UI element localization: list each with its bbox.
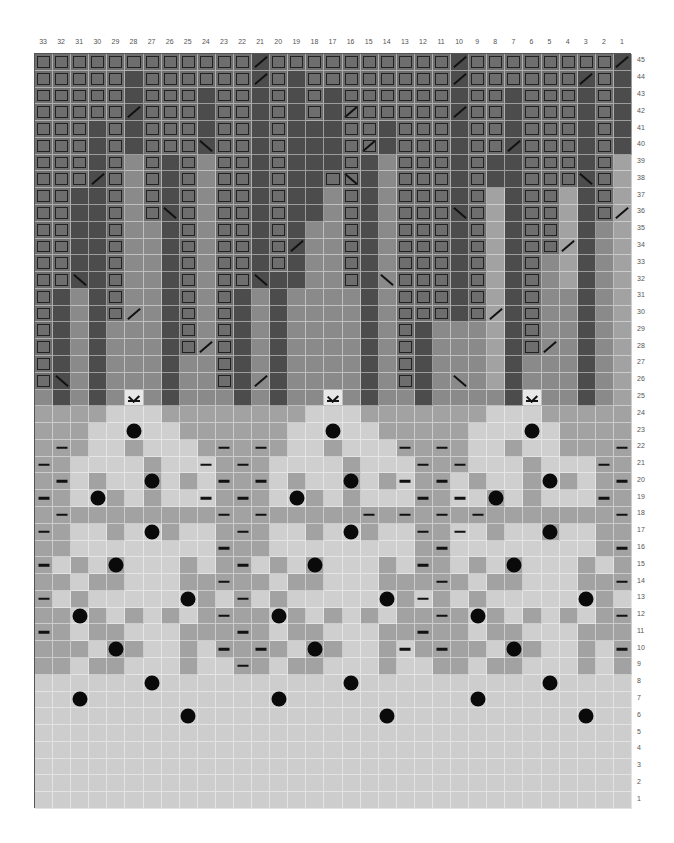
chart-cell [542,272,560,289]
chart-cell [614,138,632,155]
chart-cell [125,239,143,256]
chart-cell [198,406,216,423]
row-label: 35 [637,224,645,231]
chart-cell [162,759,180,776]
chart-cell [270,54,288,71]
chart-cell [469,608,487,625]
chart-cell [35,306,53,323]
chart-cell [415,725,433,742]
chart-cell [343,742,361,759]
chart-cell [107,71,125,88]
chart-cell [53,440,71,457]
chart-cell [35,641,53,658]
chart-cell [144,155,162,172]
chart-cell [415,792,433,809]
chart-cell [542,423,560,440]
chart-cell [343,725,361,742]
chart-cell [306,473,324,490]
chart-cell [162,322,180,339]
chart-cell [198,88,216,105]
chart-cell [107,557,125,574]
chart-cell [451,759,469,776]
chart-cell [560,742,578,759]
chart-cell [560,591,578,608]
chart-cell [505,725,523,742]
chart-cell [270,171,288,188]
chart-cell [578,155,596,172]
chart-cell [270,255,288,272]
chart-cell [288,71,306,88]
chart-cell [560,289,578,306]
chart-cell [306,541,324,558]
chart-cell [53,792,71,809]
chart-cell [505,473,523,490]
chart-cell [433,557,451,574]
chart-cell [198,507,216,524]
chart-cell [433,524,451,541]
chart-cell [614,742,632,759]
column-label: 24 [197,38,215,45]
chart-cell [234,641,252,658]
chart-cell [35,490,53,507]
chart-cell [71,406,89,423]
chart-cell [469,390,487,407]
chart-cell [361,524,379,541]
chart-cell [53,390,71,407]
chart-cell [415,624,433,641]
chart-cell [343,608,361,625]
chart-cell [614,289,632,306]
chart-cell [361,557,379,574]
right-slash-icon [451,54,468,70]
chart-cell [252,306,270,323]
chart-cell [361,104,379,121]
chart-cell [523,524,541,541]
chart-cell [361,507,379,524]
chart-cell [433,239,451,256]
chart-cell [71,725,89,742]
row-label: 44 [637,73,645,80]
chart-cell [162,71,180,88]
chart-cell [343,54,361,71]
chart-cell [270,608,288,625]
chart-cell [288,692,306,709]
chart-cell [397,557,415,574]
chart-cell [306,121,324,138]
chart-cell [107,171,125,188]
chart-cell [252,675,270,692]
chart-cell [505,306,523,323]
chart-cell [578,138,596,155]
chart-cell [397,490,415,507]
chart-cell [596,255,614,272]
chart-cell [144,188,162,205]
chart-cell [614,490,632,507]
chart-cell [71,624,89,641]
chart-cell [144,339,162,356]
chart-cell [379,608,397,625]
chart-cell [234,339,252,356]
chart-cell [343,356,361,373]
chart-cell [288,188,306,205]
chart-cell [107,390,125,407]
left-slash-icon [343,171,360,187]
chart-cell [343,507,361,524]
chart-cell [288,222,306,239]
dot-icon [180,591,197,607]
column-labels: 3332313029282726252423222120191817161514… [34,38,631,50]
dash-icon [35,490,52,506]
chart-cell [252,490,270,507]
chart-cell [523,104,541,121]
chart-cell [433,138,451,155]
right-slash-icon [451,71,468,87]
chart-cell [343,306,361,323]
chart-cell [180,255,198,272]
chart-cell [343,188,361,205]
dot-icon [324,423,341,439]
chart-cell [107,138,125,155]
chart-cell [343,658,361,675]
chart-cell [578,641,596,658]
dot-icon [523,423,540,439]
chart-cell [324,658,342,675]
chart-cell [216,155,234,172]
chart-cell [35,759,53,776]
chart-cell [596,121,614,138]
